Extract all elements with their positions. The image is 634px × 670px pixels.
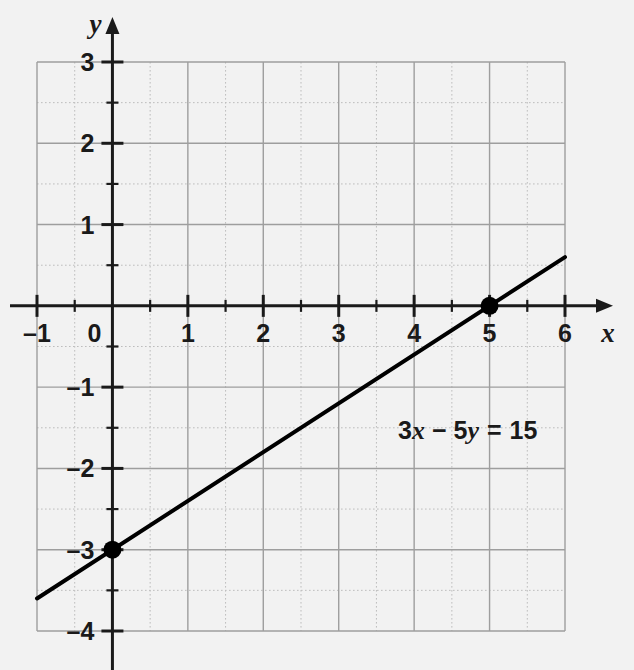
y-tick-label: –3 [67, 536, 95, 564]
equation-var-x: x [411, 416, 425, 445]
x-tick-label: 5 [483, 319, 497, 347]
graph-figure: –10123456321–1–2–3–4 x y 3x−5y=15 [0, 0, 634, 670]
y-tick-label: –2 [67, 454, 95, 482]
equation-annotation: 3x−5y=15 [398, 416, 537, 445]
x-tick-label: 3 [332, 319, 346, 347]
x-tick-label: –1 [23, 319, 51, 347]
data-point-y-intercept [103, 541, 121, 559]
y-axis-arrowhead [105, 17, 119, 34]
y-tick-label: 3 [81, 48, 95, 76]
y-tick-label: 2 [81, 129, 95, 157]
x-axis-label: x [600, 318, 615, 348]
y-axis-label: y [86, 9, 102, 39]
equation-coef-x: 3 [398, 416, 412, 444]
x-tick-label: 1 [181, 319, 195, 347]
x-tick-label: 6 [558, 319, 572, 347]
equation-var-y: y [464, 416, 479, 445]
equation-equals: = [487, 416, 502, 444]
equation-constant: 15 [510, 416, 538, 444]
coordinate-plane: –10123456321–1–2–3–4 x y 3x−5y=15 [0, 0, 634, 670]
y-tick-label: 1 [81, 211, 95, 239]
y-tick-label: –4 [67, 617, 95, 645]
equation-coef-y: 5 [454, 416, 468, 444]
y-tick-label: –1 [67, 373, 95, 401]
x-tick-label: 4 [407, 319, 421, 347]
x-tick-label: 0 [87, 319, 101, 347]
data-point-x-intercept [481, 297, 499, 315]
x-axis-arrowhead [596, 299, 613, 313]
x-tick-label: 2 [256, 319, 270, 347]
equation-minus: − [432, 416, 447, 444]
